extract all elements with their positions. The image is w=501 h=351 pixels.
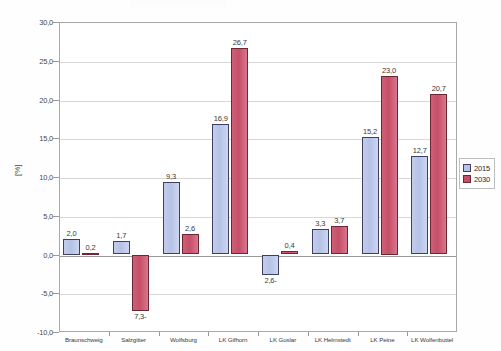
y-tick-label: -5,0: [13, 289, 53, 298]
bar-group: 2,00,2: [59, 22, 109, 332]
bar-group: 15,223,0: [358, 22, 408, 332]
chart-legend: 2015 2030: [459, 158, 495, 189]
bar-2015[interactable]: [411, 156, 428, 254]
y-tick-label: 20,0: [13, 95, 53, 104]
y-tick-label: 0,0: [13, 250, 53, 259]
x-tick-mark: [159, 332, 160, 336]
bar-value-label: 0,2: [71, 243, 111, 252]
bar-2015[interactable]: [212, 124, 229, 255]
y-tick-label: -10,0: [13, 328, 53, 337]
x-tick-mark: [358, 332, 359, 336]
legend-swatch-2015: [463, 164, 471, 172]
legend-swatch-2030: [463, 175, 471, 183]
bar-2015[interactable]: [262, 255, 279, 275]
y-tick-label: 30,0: [13, 18, 53, 27]
bar-2030[interactable]: [182, 234, 199, 254]
bar-value-label: 2,6-: [251, 276, 291, 285]
bar-2030[interactable]: [331, 226, 348, 255]
bar-2030[interactable]: [231, 48, 248, 255]
y-tick-label: 10,0: [13, 173, 53, 182]
bars-layer: 2,00,21,77,3-9,32,616,926,72,6-0,43,33,7…: [59, 22, 457, 332]
bar-chart: [%] 30,025,020,015,010,05,00,0-5,0-10,0 …: [0, 0, 501, 351]
bar-2030[interactable]: [381, 76, 398, 254]
bar-2015[interactable]: [113, 241, 130, 254]
bar-value-label: 1,7: [101, 231, 141, 240]
top-edge-artifact: [131, 0, 226, 7]
bar-value-label: 7,3-: [120, 312, 160, 321]
bar-2030[interactable]: [430, 94, 447, 254]
x-tick-mark: [407, 332, 408, 336]
y-tick-mark: [53, 332, 59, 333]
bar-2015[interactable]: [312, 229, 329, 255]
bar-value-label: 20,7: [419, 84, 459, 93]
bar-group: 9,32,6: [159, 22, 209, 332]
x-tick-mark: [258, 332, 259, 336]
legend-label-2015: 2015: [474, 164, 490, 173]
bar-2030[interactable]: [132, 255, 149, 312]
bar-value-label: 2,0: [52, 229, 92, 238]
bar-2015[interactable]: [163, 182, 180, 254]
y-tick-label: 5,0: [13, 211, 53, 220]
x-tick-mark: [208, 332, 209, 336]
x-tick-mark: [308, 332, 309, 336]
bar-value-label: 23,0: [369, 66, 409, 75]
bar-2015[interactable]: [362, 137, 379, 255]
x-axis-label: LK Wolfenbuttel: [401, 336, 463, 343]
bar-2030[interactable]: [281, 251, 298, 254]
bar-value-label: 0,4: [270, 241, 310, 250]
bar-value-label: 3,7: [319, 216, 359, 225]
y-tick-label: 25,0: [13, 56, 53, 65]
bar-group: 3,33,7: [308, 22, 358, 332]
bar-value-label: 26,7: [220, 38, 260, 47]
legend-item-2030[interactable]: 2030: [463, 174, 490, 184]
bar-value-label: 9,3: [151, 172, 191, 181]
bar-value-label: 2,6: [170, 224, 210, 233]
bar-group: 12,720,7: [407, 22, 457, 332]
bar-group: 2,6-0,4: [258, 22, 308, 332]
legend-label-2030: 2030: [474, 175, 490, 184]
bar-2030[interactable]: [82, 253, 99, 255]
y-tick-label: 15,0: [13, 134, 53, 143]
legend-item-2015[interactable]: 2015: [463, 163, 490, 173]
x-tick-mark: [109, 332, 110, 336]
bar-group: 16,926,7: [208, 22, 258, 332]
